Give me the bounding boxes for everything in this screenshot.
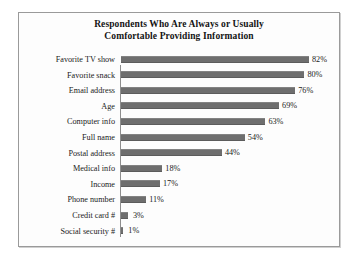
bar-value-label: 1% (128, 225, 139, 236)
bar-value-label: 80% (307, 69, 322, 80)
bar-track (121, 212, 128, 219)
bar-row: Full name 54% (19, 131, 341, 147)
bar-fill (121, 196, 146, 203)
bar-row: Favorite snack 80% (19, 69, 341, 85)
bar-value-label: 76% (298, 85, 313, 96)
bar-fill (121, 134, 245, 141)
bar-row: Postal address 44% (19, 147, 341, 163)
bar-row: Credit card # 3% (19, 209, 341, 225)
bar-value-label: 82% (312, 54, 327, 65)
bar-category-label: Postal address (19, 148, 115, 159)
bar-track (121, 149, 222, 156)
bar-row: Favorite TV show 82% (19, 53, 341, 69)
bar-fill (121, 149, 222, 156)
bar-category-label: Social security # (19, 226, 115, 237)
bar-category-label: Credit card # (19, 210, 115, 221)
bar-track (121, 56, 309, 63)
bar-row: Computer info 63% (19, 115, 341, 131)
bar-category-label: Computer info (19, 116, 115, 127)
chart-title-line-2: Comfortable Providing Information (19, 31, 339, 43)
bar-category-label: Medical info (19, 163, 115, 174)
bar-row: Age 69% (19, 100, 341, 116)
bar-track (121, 102, 279, 109)
bar-fill (121, 71, 304, 78)
bar-category-label: Age (19, 101, 115, 112)
bar-track (121, 71, 304, 78)
bar-track (121, 134, 245, 141)
bar-value-label: 44% (225, 147, 240, 158)
bar-row: Phone number 11% (19, 193, 341, 209)
bar-value-label: 63% (268, 116, 283, 127)
bar-fill (121, 56, 309, 63)
bar-fill (121, 180, 160, 187)
bar-track (121, 118, 265, 125)
bar-value-label: 17% (163, 178, 178, 189)
bar-track (121, 165, 162, 172)
chart-title: Respondents Who Are Always or Usually Co… (19, 19, 339, 42)
bar-fill (121, 102, 279, 109)
bar-value-label: 3% (133, 210, 144, 221)
bar-row: Medical info 18% (19, 162, 341, 178)
bar-track (121, 87, 295, 94)
chart-frame: Respondents Who Are Always or Usually Co… (18, 12, 340, 247)
bar-value-label: 54% (248, 132, 263, 143)
bar-value-label: 18% (165, 163, 180, 174)
bar-category-label: Income (19, 179, 115, 190)
bar-fill (121, 227, 123, 234)
bar-category-label: Favorite snack (19, 70, 115, 81)
chart-title-line-1: Respondents Who Are Always or Usually (19, 19, 339, 31)
bar-fill (121, 212, 128, 219)
bar-value-label: 11% (149, 194, 164, 205)
plot-area: Favorite TV show 82% Favorite snack 80% … (19, 53, 341, 243)
bar-fill (121, 87, 295, 94)
bar-track (121, 227, 123, 234)
bar-track (121, 180, 160, 187)
bar-category-label: Full name (19, 132, 115, 143)
bar-fill (121, 165, 162, 172)
bar-category-label: Favorite TV show (19, 54, 115, 65)
bar-row: Social security # 1% (19, 225, 341, 241)
bar-row: Email address 76% (19, 84, 341, 100)
bar-fill (121, 118, 265, 125)
bar-category-label: Phone number (19, 194, 115, 205)
bar-row: Income 17% (19, 178, 341, 194)
bar-value-label: 69% (282, 100, 297, 111)
bar-category-label: Email address (19, 85, 115, 96)
bar-track (121, 196, 146, 203)
